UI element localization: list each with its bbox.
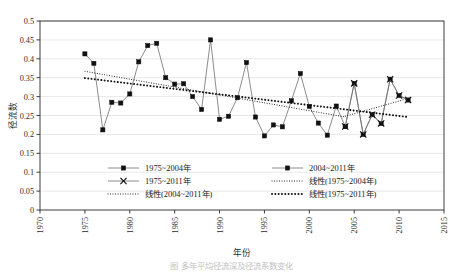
x-axis-title: 年份 [233, 247, 251, 258]
data-point-square [226, 114, 230, 118]
data-point-square [146, 43, 150, 47]
legend-label: 1975~2004年 [145, 163, 191, 173]
x-tick-label: 1990 [216, 217, 225, 233]
y-axis-title: 径流数 [7, 102, 18, 129]
y-tick-label: 0.2 [24, 130, 34, 139]
y-tick-label: 0.35 [20, 74, 34, 83]
y-tick-label: 0 [30, 206, 34, 215]
x-tick-label: 2010 [395, 217, 404, 233]
x-tick-label: 1985 [171, 217, 180, 233]
data-point-square [164, 76, 168, 80]
figure-caption: 图 多年平均径流深及径流系数变化 [0, 259, 463, 273]
data-point-square [191, 95, 195, 99]
y-tick-label: 0.05 [20, 187, 34, 196]
data-point-square [271, 123, 275, 127]
data-point-square [285, 166, 289, 170]
data-point-square [280, 125, 284, 129]
data-point-square [128, 92, 132, 96]
y-tick-label: 0.25 [20, 112, 34, 121]
data-point-square [325, 133, 329, 137]
y-tick-label: 0.4 [24, 55, 34, 64]
data-point-square [253, 115, 257, 119]
data-point-square [110, 100, 114, 104]
y-axis [37, 21, 41, 210]
data-point-square [208, 38, 212, 42]
data-point-square [182, 82, 186, 86]
chart-svg: 00.050.10.150.20.250.30.350.40.450.51970… [0, 0, 463, 273]
x-tick-label: 2000 [305, 217, 314, 233]
x-tick-label: 1975 [81, 217, 90, 233]
x-axis [40, 210, 444, 214]
data-point-square [334, 104, 338, 108]
x-tick-label: 2005 [350, 217, 359, 233]
x-tick-label: 1980 [126, 217, 135, 233]
data-point-square [101, 128, 105, 132]
legend-label: 线性(2004~2011年) [145, 189, 213, 199]
data-point-square [92, 61, 96, 65]
data-point-square [173, 82, 177, 86]
y-tick-label: 0.1 [24, 168, 34, 177]
x-tick-label: 1995 [260, 217, 269, 233]
legend-label: 线性(1975~2004年) [309, 176, 377, 186]
x-tick-label: 1970 [36, 217, 45, 233]
legend-label: 线性(1975~2011年) [309, 189, 377, 199]
y-tick-label: 0.15 [20, 149, 34, 158]
data-point-square [200, 107, 204, 111]
chart-figure: 00.050.10.150.20.250.30.350.40.450.51970… [0, 0, 463, 273]
legend-label: 1975~2011年 [145, 176, 191, 186]
data-point-square [119, 101, 123, 105]
data-point-square [155, 41, 159, 45]
x-tick-label: 2015 [440, 217, 449, 233]
legend-label: 2004~2011年 [309, 163, 355, 173]
data-point-square [262, 134, 266, 138]
data-point-square [83, 52, 87, 56]
data-point-square [316, 121, 320, 125]
data-point-square [244, 60, 248, 64]
data-point-square [137, 60, 141, 64]
data-point-square [121, 166, 125, 170]
data-point-square [217, 117, 221, 121]
y-tick-label: 0.45 [20, 36, 34, 45]
data-point-square [298, 71, 302, 75]
y-tick-label: 0.5 [24, 17, 34, 26]
y-tick-label: 0.3 [24, 93, 34, 102]
